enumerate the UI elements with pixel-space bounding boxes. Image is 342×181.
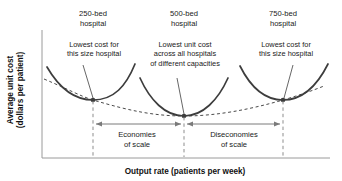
callout-500-bed: Lowest unit cost across all hospitals of…: [135, 40, 235, 68]
callout-250-bed: Lowest cost for this size hospital: [46, 40, 142, 59]
callout-500-line2: across all hospitals: [135, 49, 235, 58]
capacity-label-500-line2: hospital: [149, 19, 219, 29]
capacity-label-500-line1: 500-bed: [149, 9, 219, 19]
region-economies-line1: Economies: [98, 130, 176, 140]
curve-500-bed: [140, 78, 228, 116]
callout-250-line2: this size hospital: [46, 49, 142, 58]
callout-leader-lines: [83, 65, 293, 114]
callout-750-line1: Lowest cost for: [238, 40, 334, 49]
callout-750-line2: this size hospital: [238, 49, 334, 58]
region-label-economies: Economies of scale: [98, 130, 176, 149]
y-axis-title-line2: (dollars per patient): [16, 30, 26, 150]
callout-250-line1: Lowest cost for: [46, 40, 142, 49]
capacity-label-500-bed: 500-bed hospital: [149, 9, 219, 28]
region-label-diseconomies: Diseconomies of scale: [192, 130, 276, 149]
region-diseconomies-line1: Diseconomies: [192, 130, 276, 140]
capacity-label-250-line1: 250-bed: [58, 9, 128, 19]
economies-of-scale-figure: 250-bed hospital 500-bed hospital 750-be…: [0, 0, 342, 181]
capacity-label-750-line1: 750-bed: [248, 9, 318, 19]
x-axis-title: Output rate (patients per week): [60, 167, 310, 177]
callout-500-line3: of different capacities: [135, 59, 235, 68]
curve-750-bed: [240, 64, 328, 100]
capacity-label-250-line2: hospital: [58, 19, 128, 29]
leader-250: [83, 65, 93, 98]
leader-750: [284, 65, 293, 98]
region-economies-line2: of scale: [98, 140, 176, 150]
region-diseconomies-line2: of scale: [192, 140, 276, 150]
capacity-label-250-bed: 250-bed hospital: [58, 9, 128, 28]
capacity-label-750-line2: hospital: [248, 19, 318, 29]
callout-750-bed: Lowest cost for this size hospital: [238, 40, 334, 59]
y-axis-title: Average unit cost (dollars per patient): [6, 30, 26, 150]
leader-500: [177, 78, 184, 114]
long-run-average-cost-envelope: [44, 79, 324, 116]
callout-500-line1: Lowest unit cost: [135, 40, 235, 49]
capacity-label-750-bed: 750-bed hospital: [248, 9, 318, 28]
y-axis-title-line1: Average unit cost: [6, 30, 16, 150]
curve-250-bed: [47, 64, 135, 100]
